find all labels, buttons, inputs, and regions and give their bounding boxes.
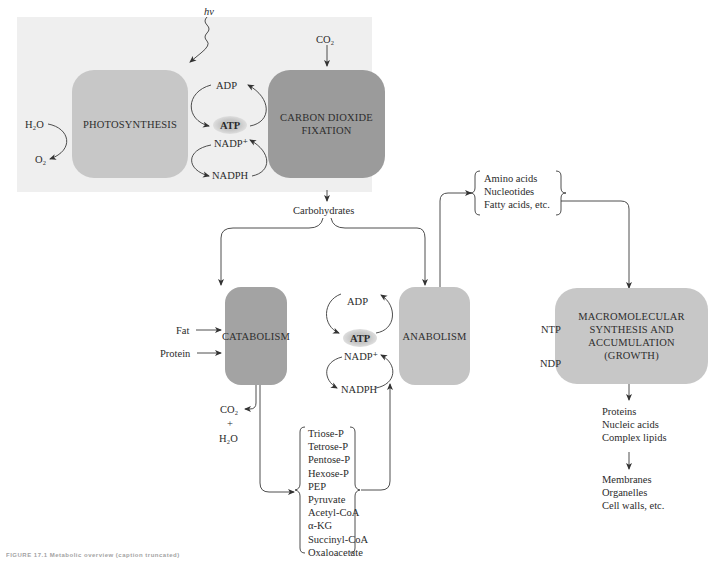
figure-caption: FIGURE 17.1 Metabolic overview (caption … (6, 552, 180, 558)
photosynthesis-label: PHOTOSYNTHESIS (83, 118, 177, 131)
macromolecular-line2: SYNTHESIS AND (590, 323, 674, 336)
adp-label-top: ADP (216, 79, 237, 92)
protein-label: Protein (160, 347, 190, 360)
plus-label: + (227, 417, 233, 430)
macromolecular-line3: ACCUMULATION (588, 336, 674, 349)
macromolecular-line4: (GROWTH) (604, 349, 659, 362)
anabolism-box: ANABOLISM (399, 287, 470, 385)
list-item: Cell walls, etc. (602, 499, 664, 512)
macromolecules-list: Proteins Nucleic acids Complex lipids (602, 405, 666, 445)
co2-input-label: CO₂ (316, 33, 334, 46)
list-item: Pentose-P (308, 453, 368, 466)
list-item: Proteins (602, 405, 666, 418)
co2-fixation-label-line2: FIXATION (301, 124, 351, 137)
nadph-label-top: NADPH (212, 169, 248, 182)
list-item: Organelles (602, 486, 664, 499)
list-item: Succinyl-CoA (308, 533, 368, 546)
list-item: PEP (308, 480, 368, 493)
o2-label: O₂ (35, 153, 46, 166)
list-item: Fatty acids, etc. (484, 198, 550, 211)
list-item: Membranes (602, 473, 664, 486)
catabolism-label: CATABOLISM (222, 330, 290, 343)
h2o-label: H₂O (25, 118, 44, 131)
list-item: Nucleic acids (602, 418, 666, 431)
list-item: Nucleotides (484, 185, 550, 198)
light-label: hν (204, 5, 214, 18)
list-item: Triose-P (308, 427, 368, 440)
list-item: Hexose-P (308, 467, 368, 480)
list-item: Complex lipids (602, 431, 666, 444)
list-item: Tetrose-P (308, 440, 368, 453)
atp-badge-bottom: ATP (343, 329, 377, 347)
fat-label: Fat (176, 324, 189, 337)
intermediates-list: Triose-P Tetrose-P Pentose-P Hexose-P PE… (308, 427, 368, 559)
atp-label-bottom: ATP (350, 333, 370, 344)
building-blocks-list: Amino acids Nucleotides Fatty acids, etc… (484, 172, 550, 212)
list-item: Acetyl-CoA (308, 506, 368, 519)
anabolism-label: ANABOLISM (402, 330, 466, 343)
co2-output-label: CO₂ (220, 403, 238, 416)
nadph-label-bottom: NADPH (341, 383, 377, 396)
adp-label-bottom: ADP (347, 295, 368, 308)
carbohydrates-label: Carbohydrates (293, 204, 354, 217)
list-item: Amino acids (484, 172, 550, 185)
macromolecular-box: MACROMOLECULAR SYNTHESIS AND ACCUMULATIO… (555, 288, 708, 384)
catabolism-box: CATABOLISM (225, 287, 287, 385)
structures-list: Membranes Organelles Cell walls, etc. (602, 473, 664, 513)
nadp-label-bottom: NADP⁺ (344, 350, 378, 363)
nadp-label-top: NADP⁺ (214, 137, 248, 150)
list-item: Oxaloacetate (308, 546, 368, 559)
ntp-label: NTP (541, 323, 561, 336)
list-item: Pyruvate (308, 493, 368, 506)
macromolecular-line1: MACROMOLECULAR (578, 310, 685, 323)
ndp-label: NDP (540, 357, 561, 370)
h2o-output-label: H₂O (219, 432, 238, 445)
co2-fixation-label-line1: CARBON DIOXIDE (280, 111, 373, 124)
co2-fixation-box: CARBON DIOXIDE FIXATION (268, 70, 385, 178)
atp-label-top: ATP (220, 120, 240, 131)
photosynthesis-box: PHOTOSYNTHESIS (72, 70, 188, 178)
list-item: α-KG (308, 519, 368, 532)
atp-badge-top: ATP (213, 116, 247, 134)
